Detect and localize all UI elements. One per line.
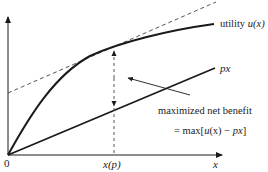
annotation-line2-suffix: ] xyxy=(243,125,247,136)
cost-label: px xyxy=(219,62,231,74)
annotation-line2-px: px xyxy=(232,125,243,136)
x-axis-label: x xyxy=(212,158,218,170)
utility-diagram: 0 x x(p) utility u(x) px maximized net b… xyxy=(0,0,268,172)
utility-label-prefix: utility xyxy=(220,18,248,29)
utility-label-func: u(x) xyxy=(248,18,265,30)
annotation-line2-mid: (x) − xyxy=(209,125,232,137)
annotation-line2: = max[u(x) − px] xyxy=(174,125,246,137)
origin-label: 0 xyxy=(4,157,10,169)
utility-label: utility u(x) xyxy=(220,18,265,30)
annotation-line2-prefix: = max[ xyxy=(174,125,205,136)
xp-tick-label: x(p) xyxy=(102,158,121,171)
annotation-line1: maximized net benefit xyxy=(158,105,252,116)
